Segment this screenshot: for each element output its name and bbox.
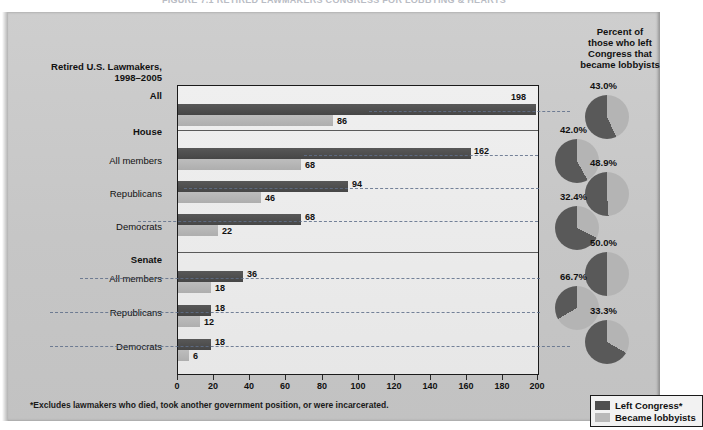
bar-left-congress-house-rep (178, 181, 348, 192)
x-tick-label-140: 140 (422, 381, 437, 391)
pie-panel-title: Percent of those who left Congress that … (570, 26, 670, 70)
pie-chart-senate-dem (585, 320, 629, 364)
group-separator-senate (178, 252, 538, 253)
category-label-all: All (150, 90, 162, 101)
group-label-senate: Senate (131, 254, 162, 265)
bar-became-lobbyists-house-all (178, 159, 301, 170)
axis-group-title-line2: 1998–2005 (114, 72, 162, 83)
pie-label-senate-dem: 33.3% (590, 305, 617, 316)
x-tick-label-0: 0 (174, 381, 179, 391)
pie-label-all: 43.0% (590, 80, 617, 91)
pie-panel-title-line2: those who left (570, 37, 670, 48)
legend-label-left-congress: Left Congress* (615, 400, 683, 411)
category-label-house-republicans: Republicans (110, 188, 162, 199)
x-tick-label-200: 200 (529, 381, 544, 391)
x-tick-label-100: 100 (350, 381, 365, 391)
pie-label-house-all: 42.0% (560, 124, 587, 135)
x-tick-label-180: 180 (494, 381, 509, 391)
bar-left-congress-house-all (178, 148, 471, 159)
pie-label-senate-all: 50.0% (590, 237, 617, 248)
legend-item-left-congress: Left Congress* (595, 399, 696, 411)
bar-value-became-lobbyists-all: 86 (337, 116, 347, 127)
bar-became-lobbyists-house-rep (178, 192, 261, 203)
group-separator-house (178, 130, 538, 131)
bar-value-left-congress-all: 198 (511, 92, 526, 103)
leader-line-all (369, 111, 570, 112)
pie-panel-title-line1: Percent of (570, 26, 670, 37)
chart-footnote: *Excludes lawmakers who died, took anoth… (30, 400, 389, 410)
x-tick-label-80: 80 (317, 381, 327, 391)
pie-label-house-dem: 32.4% (560, 191, 587, 202)
group-label-house: House (133, 126, 162, 137)
legend-swatch-became-lobbyists (595, 413, 610, 422)
pie-panel-title-line4: became lobbyists (570, 59, 670, 70)
bar-left-congress-senate-rep (178, 305, 211, 316)
legend-item-became-lobbyists: Became lobbyists (595, 411, 696, 423)
bar-became-lobbyists-senate-all (178, 282, 211, 293)
chart-poster-panel: Retired U.S. Lawmakers, 1998–2005 All Ho… (8, 12, 660, 421)
bar-value-became-lobbyists-senate-dem: 6 (193, 351, 198, 362)
pie-chart-house-rep (585, 172, 629, 216)
pie-chart-all (585, 95, 629, 139)
bar-value-became-lobbyists-house-rep: 46 (265, 193, 275, 204)
category-label-column: Retired U.S. Lawmakers, 1998–2005 All Ho… (8, 12, 170, 421)
x-tick-label-40: 40 (244, 381, 254, 391)
figure-top-title: FIGURE 7.1 RETIRED LAWMAKERS CONGRESS FO… (0, 0, 668, 4)
bar-left-congress-senate-dem (178, 339, 211, 350)
legend-swatch-left-congress (595, 401, 610, 410)
leader-line-house-dem (138, 221, 538, 222)
chart-legend: Left Congress* Became lobbyists (590, 395, 703, 427)
x-tick-label-120: 120 (386, 381, 401, 391)
x-tick-label-20: 20 (208, 381, 218, 391)
leader-line-house-rep (184, 188, 539, 189)
pie-chart-senate-all (585, 252, 629, 296)
x-axis: 0 20 40 60 80 100 120 140 160 180 200 (177, 375, 539, 401)
x-tick-label-60: 60 (280, 381, 290, 391)
bar-became-lobbyists-senate-dem (178, 350, 189, 361)
leader-line-house-all (304, 155, 538, 156)
pie-label-house-rep: 48.9% (590, 157, 617, 168)
bar-left-congress-house-dem (178, 214, 301, 225)
bar-value-became-lobbyists-house-all: 68 (305, 160, 315, 171)
pie-panel-title-line3: Congress that (570, 48, 670, 59)
bar-value-became-lobbyists-senate-rep: 12 (204, 317, 214, 328)
bar-value-became-lobbyists-senate-all: 18 (215, 283, 225, 294)
bar-became-lobbyists-house-dem (178, 225, 218, 236)
bar-left-congress-senate-all (178, 271, 243, 282)
bar-became-lobbyists-senate-rep (178, 316, 200, 327)
bar-became-lobbyists-all (178, 115, 333, 126)
bar-value-became-lobbyists-house-dem: 22 (222, 226, 232, 237)
leader-line-senate-all (80, 278, 540, 279)
legend-label-became-lobbyists: Became lobbyists (615, 412, 696, 423)
category-label-house-democrats: Democrats (116, 221, 162, 232)
pie-label-senate-rep: 66.7% (560, 271, 587, 282)
leader-line-senate-rep (50, 312, 540, 313)
plot-area: 198 86 162 68 94 46 68 22 36 18 (177, 85, 539, 375)
axis-group-title-line1: Retired U.S. Lawmakers, (51, 61, 162, 72)
bar-left-congress-all (178, 104, 536, 115)
x-tick-label-160: 160 (458, 381, 473, 391)
category-label-house-all-members: All members (109, 155, 162, 166)
leader-line-senate-dem (50, 346, 570, 347)
